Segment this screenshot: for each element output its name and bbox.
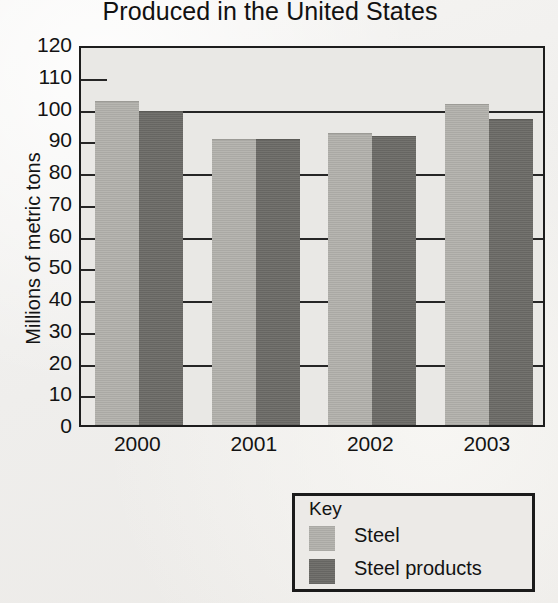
y-tick-label-110: 110 <box>10 65 72 89</box>
bar-2001-steel-products <box>256 139 300 425</box>
y-tick-label-10: 10 <box>10 382 72 406</box>
legend-swatch-steel <box>309 526 335 551</box>
y-tick-label-40: 40 <box>10 287 72 311</box>
y-tick-label-0: 0 <box>10 414 72 438</box>
bar-2000-steel-products <box>139 111 183 425</box>
legend-swatch-steel-products <box>309 559 335 584</box>
y-tick-label-90: 90 <box>10 128 72 152</box>
bar-2003-steel <box>445 104 489 425</box>
y-tick-label-30: 30 <box>10 319 72 343</box>
bar-2003-steel-products <box>489 119 533 425</box>
legend-label-steel: Steel <box>354 524 400 547</box>
y-tick-label-50: 50 <box>10 255 72 279</box>
bar-2001-steel <box>212 139 256 425</box>
x-tick-label-2003: 2003 <box>463 432 510 456</box>
y-axis-tick-labels: 0102030405060708090100110120 <box>0 46 72 427</box>
y-tick-label-120: 120 <box>10 33 72 57</box>
plot-area <box>79 46 545 427</box>
legend-title: Key <box>309 498 342 520</box>
bar-2000-steel <box>95 101 139 425</box>
x-tick-label-2000: 2000 <box>114 432 161 456</box>
y-tick-label-20: 20 <box>10 351 72 375</box>
y-tick-label-80: 80 <box>10 160 72 184</box>
x-tick-label-2001: 2001 <box>230 432 277 456</box>
x-tick-label-2002: 2002 <box>347 432 394 456</box>
bar-2002-steel-products <box>372 136 416 425</box>
y-tick-label-60: 60 <box>10 224 72 248</box>
legend-label-steel-products: Steel products <box>354 557 482 580</box>
chart-page: Produced in the United States Millions o… <box>0 0 558 603</box>
bar-2002-steel <box>328 133 372 425</box>
gridline-110 <box>81 79 107 81</box>
y-tick-label-100: 100 <box>10 97 72 121</box>
chart-title: Produced in the United States <box>0 0 540 26</box>
y-tick-label-70: 70 <box>10 192 72 216</box>
legend: Key Steel Steel products <box>292 493 535 592</box>
